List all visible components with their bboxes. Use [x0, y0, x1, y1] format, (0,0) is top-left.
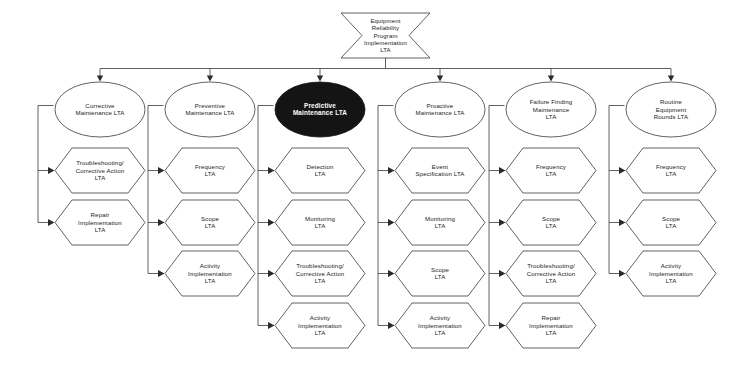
node-failure-finding-maintenance-label-line: LTA: [546, 113, 558, 120]
arrowhead-right-icon: [268, 322, 275, 329]
node-predictive-monitoring-label-line: LTA: [315, 222, 327, 229]
node-proactive-scope-label-line: Scope: [431, 266, 449, 273]
arrowhead-down-icon: [207, 76, 213, 82]
node-failure-repair-label-line: Repair: [542, 314, 561, 321]
arrowhead-right-icon: [619, 167, 626, 174]
node-proactive-maintenance-label-line: Proactive: [427, 102, 454, 109]
arrowhead-right-icon: [499, 219, 506, 226]
node-proactive-maintenance-label-line: Maintenance LTA: [415, 109, 465, 116]
node-failure-finding-maintenance-label-line: Failure Finding: [530, 98, 573, 105]
logic-tree-diagram: EquipmentReliabilityProgramImplementatio…: [0, 0, 738, 366]
arrowhead-right-icon: [388, 167, 395, 174]
node-routine-activity-label-line: Implementation: [649, 270, 693, 277]
node-predictive-activity-label-line: Implementation: [298, 322, 342, 329]
node-corrective-troubleshooting-label-line: Corrective Action: [76, 167, 125, 174]
arrowhead-right-icon: [268, 167, 275, 174]
arrowhead-right-icon: [619, 270, 626, 277]
node-failure-repair-label-line: LTA: [546, 329, 558, 336]
node-preventive-frequency-label-line: LTA: [205, 170, 217, 177]
node-failure-troubleshooting-label-line: Troubleshooting/: [527, 262, 575, 269]
node-root-label-line: Equipment: [370, 18, 400, 24]
arrowhead-right-icon: [158, 270, 165, 277]
node-preventive-maintenance-label-line: Maintenance LTA: [185, 109, 235, 116]
node-corrective-maintenance-label-line: Maintenance LTA: [75, 109, 125, 116]
arrowhead-right-icon: [388, 270, 395, 277]
arrowhead-right-icon: [268, 219, 275, 226]
node-preventive-scope-label-line: LTA: [205, 222, 217, 229]
node-proactive-activity-label-line: Implementation: [418, 322, 462, 329]
node-proactive-activity-label-line: LTA: [435, 329, 447, 336]
node-preventive-maintenance-label-line: Preventive: [195, 102, 226, 109]
node-failure-frequency-label-line: LTA: [546, 170, 558, 177]
node-corrective-troubleshooting-label-line: Troubleshooting/: [76, 159, 124, 166]
node-predictive-troubleshooting-label-line: Troubleshooting/: [296, 262, 344, 269]
arrowhead-right-icon: [499, 167, 506, 174]
node-root-label-line: LTA: [380, 47, 391, 53]
node-root-label-line: Implementation: [364, 40, 407, 46]
arrowhead-down-icon: [97, 76, 103, 82]
node-corrective-maintenance-label-line: Corrective: [85, 102, 115, 109]
node-routine-scope-label-line: Scope: [662, 215, 680, 222]
diagram-canvas: EquipmentReliabilityProgramImplementatio…: [0, 0, 738, 366]
node-failure-finding-maintenance-label-line: Maintenance: [533, 106, 570, 113]
node-corrective-repair-label-line: LTA: [95, 226, 107, 233]
node-predictive-monitoring-label-line: Monitoring: [305, 215, 335, 222]
node-failure-troubleshooting-label-line: LTA: [546, 277, 558, 284]
node-predictive-activity-label-line: LTA: [315, 329, 327, 336]
node-failure-scope-label-line: LTA: [546, 222, 558, 229]
arrowhead-right-icon: [48, 219, 55, 226]
node-corrective-repair-label-line: Repair: [91, 211, 110, 218]
node-proactive-activity-label-line: Activity: [430, 314, 451, 321]
node-routine-equipment-rounds-label-line: Rounds LTA: [654, 113, 689, 120]
node-proactive-scope-label-line: LTA: [435, 273, 447, 280]
node-root-label-line: Reliability: [372, 25, 399, 31]
node-preventive-activity-label-line: Implementation: [188, 270, 232, 277]
node-routine-frequency-label-line: LTA: [666, 170, 678, 177]
node-proactive-monitoring-label-line: LTA: [435, 222, 447, 229]
arrowhead-down-icon: [668, 76, 674, 82]
node-corrective-repair-label-line: Implementation: [78, 219, 122, 226]
node-preventive-activity-label-line: Activity: [200, 262, 221, 269]
arrowhead-right-icon: [499, 322, 506, 329]
node-failure-troubleshooting-label-line: Corrective Action: [527, 270, 576, 277]
node-routine-activity-label-line: LTA: [666, 277, 678, 284]
arrowhead-right-icon: [268, 270, 275, 277]
arrowhead-down-icon: [317, 76, 323, 82]
arrowhead-right-icon: [158, 167, 165, 174]
node-predictive-troubleshooting-label-line: Corrective Action: [296, 270, 345, 277]
node-predictive-troubleshooting-label-line: LTA: [315, 277, 327, 284]
node-predictive-detection-label-line: LTA: [315, 170, 327, 177]
node-predictive-activity-label-line: Activity: [310, 314, 331, 321]
node-failure-repair-label-line: Implementation: [529, 322, 573, 329]
arrowhead-right-icon: [388, 322, 395, 329]
node-predictive-detection-label-line: Detection: [306, 163, 333, 170]
node-predictive-maintenance-label-line: Maintenance LTA: [293, 109, 347, 116]
node-corrective-troubleshooting-label-line: LTA: [95, 174, 107, 181]
node-failure-frequency-label-line: Frequency: [536, 163, 567, 170]
node-preventive-scope-label-line: Scope: [201, 215, 219, 222]
node-routine-scope-label-line: LTA: [666, 222, 678, 229]
arrowhead-down-icon: [437, 76, 443, 82]
node-preventive-activity-label-line: LTA: [205, 277, 217, 284]
node-routine-equipment-rounds-label-line: Routine: [660, 98, 683, 105]
node-proactive-event-spec-label-line: Specification LTA: [415, 170, 465, 177]
node-routine-frequency-label-line: Frequency: [656, 163, 687, 170]
arrowhead-right-icon: [158, 219, 165, 226]
arrowhead-right-icon: [619, 219, 626, 226]
arrowhead-down-icon: [548, 76, 554, 82]
node-preventive-frequency-label-line: Frequency: [195, 163, 226, 170]
node-routine-equipment-rounds-label-line: Equipment: [656, 106, 687, 113]
arrowhead-right-icon: [499, 270, 506, 277]
arrowhead-right-icon: [388, 219, 395, 226]
node-routine-activity-label-line: Activity: [661, 262, 682, 269]
node-predictive-maintenance-label-line: Predictive: [304, 102, 336, 109]
node-root-label-line: Program: [373, 33, 397, 39]
node-proactive-event-spec-label-line: Event: [432, 163, 448, 170]
node-proactive-monitoring-label-line: Monitoring: [425, 215, 455, 222]
node-failure-scope-label-line: Scope: [542, 215, 560, 222]
arrowhead-right-icon: [48, 167, 55, 174]
